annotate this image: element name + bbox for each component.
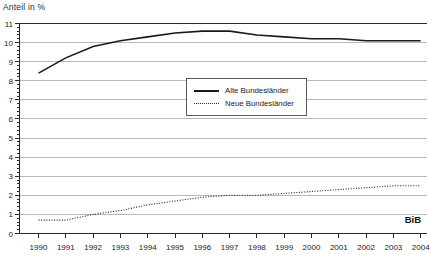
svg-text:1998: 1998 [248,243,266,252]
svg-text:7: 7 [9,96,14,105]
svg-text:2000: 2000 [303,243,321,252]
line-chart: 0123456789101119901991199219931994199519… [0,0,430,255]
svg-text:2: 2 [9,191,14,200]
svg-text:1994: 1994 [139,243,157,252]
svg-text:1997: 1997 [221,243,239,252]
svg-text:2004: 2004 [412,243,430,252]
svg-text:2003: 2003 [385,243,403,252]
svg-text:9: 9 [9,58,14,67]
legend-item-neue: Neue Bundesländer [194,99,306,108]
solid-line-sample-icon [194,90,219,92]
svg-text:1990: 1990 [30,243,48,252]
svg-text:1992: 1992 [84,243,102,252]
svg-text:1995: 1995 [166,243,184,252]
legend-label-alte: Alte Bundesländer [225,86,289,95]
svg-text:1993: 1993 [112,243,130,252]
svg-text:6: 6 [9,115,14,124]
svg-text:10: 10 [4,39,13,48]
svg-text:2001: 2001 [330,243,348,252]
y-ticks [15,24,20,234]
dotted-line-sample-icon [194,103,219,104]
source-label: BiB [405,214,421,225]
chart-canvas: 0123456789101119901991199219931994199519… [0,0,430,255]
svg-text:8: 8 [9,77,14,86]
y-axis-labels: 01234567891011 [4,20,13,239]
svg-text:1991: 1991 [57,243,75,252]
svg-text:1: 1 [9,210,14,219]
svg-text:0: 0 [9,230,14,239]
series-neue [39,186,421,220]
series-alte [39,31,421,73]
svg-text:11: 11 [5,20,14,29]
legend-label-neue: Neue Bundesländer [225,99,294,108]
x-axis-labels: 1990199119921993199419951996199719981999… [30,243,430,252]
axes [20,24,428,234]
svg-text:1999: 1999 [275,243,293,252]
legend-item-alte: Alte Bundesländer [194,86,306,95]
gridlines [20,43,428,215]
svg-text:2002: 2002 [357,243,375,252]
svg-text:3: 3 [9,172,14,181]
svg-text:5: 5 [9,134,14,143]
legend: Alte Bundesländer Neue Bundesländer [186,78,307,116]
svg-text:1996: 1996 [193,243,211,252]
chart-title: Anteil in % [3,2,45,12]
svg-text:4: 4 [9,153,14,162]
